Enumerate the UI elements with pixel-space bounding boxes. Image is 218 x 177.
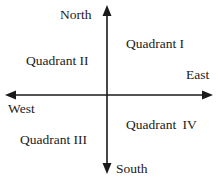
south-label: South	[116, 162, 148, 176]
quadrant-i-label: Quadrant I	[126, 37, 184, 51]
east-arrowhead-icon	[202, 91, 213, 100]
vertical-axis	[103, 5, 112, 174]
west-label: West	[8, 102, 35, 116]
quadrant-iv-label: Quadrant IV	[126, 118, 197, 132]
north-arrowhead-icon	[103, 5, 112, 16]
east-label: East	[186, 68, 209, 82]
axes	[0, 0, 218, 177]
west-arrowhead-icon	[5, 91, 16, 100]
north-label: North	[60, 8, 92, 22]
south-arrowhead-icon	[103, 163, 112, 174]
quadrant-ii-label: Quadrant II	[26, 54, 89, 68]
horizontal-axis	[5, 91, 213, 100]
quadrant-iii-label: Quadrant III	[20, 133, 87, 147]
